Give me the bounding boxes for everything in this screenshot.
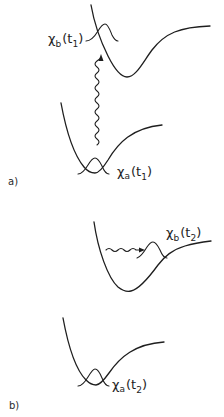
panel-b-chi-b-label: χb(t2): [166, 225, 201, 243]
panel-a-upper-potential-curve: [91, 5, 210, 77]
panel-b-lower-potential-curve: [63, 318, 164, 385]
panel-a-label: a): [8, 176, 18, 187]
panel-a: χb(t1) χa(t1) a): [8, 5, 210, 187]
panel-b-lower-wavepacket: [78, 369, 109, 386]
panel-a-chi-b-label: χb(t1): [48, 31, 83, 49]
panel-a-excitation-wavy-arrow: [95, 58, 101, 145]
panel-b: χb(t2) χa(t2) b): [9, 222, 211, 411]
wavepacket-diagram: χb(t1) χa(t1) a) χb(t2) χa(t2) b): [0, 0, 224, 417]
panel-a-chi-a-label: χa(t1): [117, 164, 152, 182]
panel-a-upper-wavepacket: [86, 24, 118, 41]
panel-b-label: b): [9, 400, 19, 411]
panel-a-lower-potential-curve: [61, 103, 162, 173]
panel-b-motion-wavy-arrow: [106, 249, 141, 252]
panel-b-chi-a-label: χa(t2): [112, 377, 147, 395]
panel-a-arrowhead-icon: [99, 54, 104, 61]
